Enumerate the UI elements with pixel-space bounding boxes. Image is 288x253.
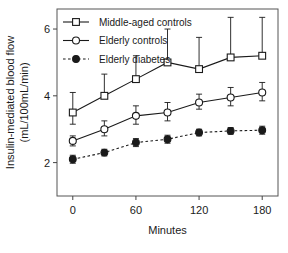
legend-item[interactable]: Middle-aged controls — [63, 17, 192, 28]
x-tick-label: 180 — [253, 204, 271, 216]
y-axis-title-line2: (mL/100mL/min) — [18, 62, 30, 142]
y-tick-label: 4 — [44, 90, 50, 102]
marker-open-circle — [196, 99, 203, 106]
y-axis-title: Insulin-mediated blood flow(mL/100mL/min… — [4, 36, 30, 169]
legend-label: Elderly diabetes — [99, 54, 170, 65]
marker-open-circle — [164, 109, 171, 116]
x-tick-label: 0 — [70, 204, 76, 216]
marker-open-square — [73, 19, 80, 26]
x-tick-label: 120 — [190, 204, 208, 216]
marker-filled-circle — [73, 56, 80, 63]
legend-label: Middle-aged controls — [99, 17, 192, 28]
x-tick-label: 60 — [130, 204, 142, 216]
marker-open-square — [101, 92, 108, 99]
marker-filled-circle — [196, 129, 203, 136]
x-axis-title: Minutes — [148, 224, 187, 236]
marker-open-circle — [132, 112, 139, 119]
marker-open-square — [227, 54, 234, 61]
y-axis-title-line1: Insulin-mediated blood flow — [4, 36, 16, 169]
y-tick-label: 6 — [44, 23, 50, 35]
legend-item[interactable]: Elderly diabetes — [63, 54, 170, 65]
marker-filled-circle — [259, 127, 266, 134]
chart-figure: 246060120180MinutesInsulin-mediated bloo… — [0, 0, 288, 253]
legend-label: Elderly controls — [99, 35, 167, 46]
marker-open-circle — [73, 37, 80, 44]
series-markers — [69, 127, 265, 163]
marker-filled-circle — [69, 156, 76, 163]
legend: Middle-aged controlsElderly controlsElde… — [63, 17, 192, 65]
marker-open-square — [69, 109, 76, 116]
marker-open-circle — [227, 94, 234, 101]
legend-item[interactable]: Elderly controls — [63, 35, 167, 46]
marker-open-circle — [259, 89, 266, 96]
marker-open-circle — [101, 126, 108, 133]
error-bars — [70, 126, 265, 163]
marker-open-circle — [69, 137, 76, 144]
marker-filled-circle — [164, 136, 171, 143]
marker-filled-circle — [101, 149, 108, 156]
marker-open-square — [259, 52, 266, 59]
marker-open-square — [133, 76, 140, 83]
x-axis: 060120180 — [70, 196, 272, 216]
marker-filled-circle — [133, 139, 140, 146]
marker-open-square — [196, 66, 203, 73]
y-tick-label: 2 — [44, 157, 50, 169]
y-axis: 246 — [44, 23, 57, 169]
marker-filled-circle — [227, 127, 234, 134]
line-chart: 246060120180MinutesInsulin-mediated bloo… — [0, 0, 288, 253]
